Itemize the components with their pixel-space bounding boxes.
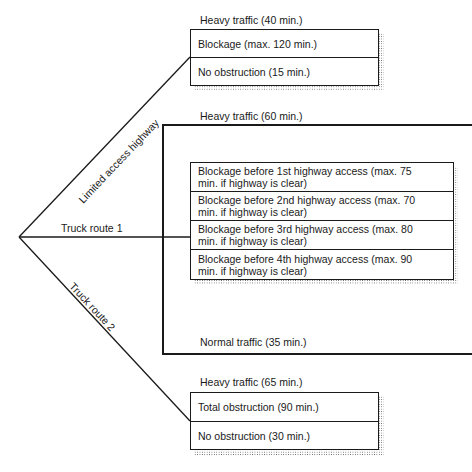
truck2-condition-label: Heavy traffic (65 min.) [200, 376, 303, 388]
truck1-outcome-3: Blockage before 3rd highway access (max.… [191, 221, 453, 250]
truck2-outcome-box: Total obstruction (90 min.) No obstructi… [190, 392, 379, 450]
highway-outcome-blockage: Blockage (max. 120 min.) [191, 30, 378, 58]
truck2-outcome-no-obstruction: No obstruction (30 min.) [191, 422, 378, 449]
truck1-outcome-2: Blockage before 2nd highway access (max.… [191, 192, 453, 221]
highway-outcome-box: Blockage (max. 120 min.) No obstruction … [190, 29, 379, 86]
truck2-outcome-total-obstruction: Total obstruction (90 min.) [191, 393, 378, 422]
truck1-outcome-1: Blockage before 1st highway access (max.… [191, 163, 453, 192]
truck1-heavy-traffic-label: Heavy traffic (60 min.) [200, 110, 303, 122]
route-label-truck1: Truck route 1 [61, 222, 122, 234]
truck1-outcome-box: Blockage before 1st highway access (max.… [190, 162, 454, 280]
highway-condition-label: Heavy traffic (40 min.) [200, 14, 303, 26]
truck1-normal-traffic-label: Normal traffic (35 min.) [200, 336, 307, 348]
truck1-outcome-4: Blockage before 4th highway access (max.… [191, 250, 453, 279]
highway-outcome-no-obstruction: No obstruction (15 min.) [191, 58, 378, 85]
